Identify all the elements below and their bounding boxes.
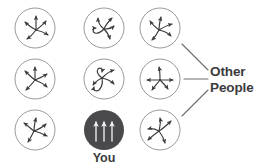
disordered-arrows-icon <box>24 118 47 142</box>
disordered-arrows-icon <box>150 17 172 40</box>
node-r1c2[interactable] <box>84 8 124 48</box>
disordered-arrows-icon <box>25 16 48 39</box>
node-r2c1[interactable] <box>15 59 55 99</box>
other-people-label-line1: Other <box>210 64 246 79</box>
node-r2c2[interactable] <box>84 59 124 99</box>
node-r3c3[interactable] <box>140 110 180 150</box>
disordered-arrows-icon <box>148 118 171 143</box>
disordered-arrows-icon <box>25 67 47 90</box>
you-label: You <box>93 151 115 165</box>
node-r3c1[interactable] <box>15 110 55 150</box>
disordered-arrows-icon <box>93 68 114 91</box>
disordered-arrows-icon <box>93 18 114 39</box>
arrow-alignment-diagram: Other People You <box>0 0 265 166</box>
connector-top-line <box>182 44 208 70</box>
node-r1c3[interactable] <box>140 8 180 48</box>
node-circle-outline <box>140 8 180 48</box>
node-circle-outline <box>15 8 55 48</box>
node-r1c1[interactable] <box>15 8 55 48</box>
diagram-canvas: Other People You <box>0 0 265 166</box>
node-r2c3[interactable] <box>140 59 180 99</box>
connector-bottom-line <box>182 90 208 116</box>
disordered-arrows-icon <box>147 67 173 90</box>
other-people-label-line2: People <box>210 80 254 95</box>
node-you[interactable] <box>84 110 124 150</box>
connector-group <box>182 44 208 116</box>
